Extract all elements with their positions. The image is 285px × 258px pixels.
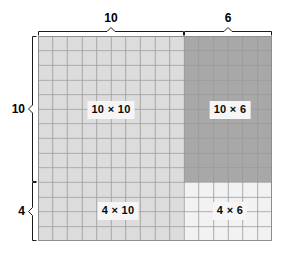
dimension-label-top-6: 6 bbox=[225, 12, 232, 24]
quadrant-label-top-left: 10 × 10 bbox=[87, 101, 134, 119]
quadrant-label-top-right: 10 × 6 bbox=[210, 101, 251, 119]
quadrant-label-bottom-left: 4 × 10 bbox=[98, 202, 139, 220]
dimension-label-left-4: 4 bbox=[9, 205, 25, 217]
bracket-left-4 bbox=[28, 182, 37, 241]
bracket-left-10 bbox=[28, 36, 37, 182]
dimension-label-top-10: 10 bbox=[104, 12, 117, 24]
quadrant-label-bottom-right: 4 × 6 bbox=[213, 202, 247, 220]
area-model-figure: 10 × 10 10 × 6 4 × 10 4 × 6 10 6 10 4 bbox=[0, 0, 285, 258]
bracket-top-6 bbox=[184, 27, 272, 36]
dimension-label-left-10: 10 bbox=[9, 103, 25, 115]
bracket-top-10 bbox=[38, 27, 184, 36]
